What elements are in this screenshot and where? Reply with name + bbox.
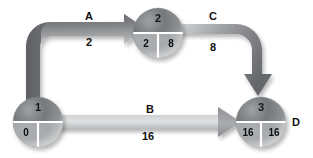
edge-a-weight: 2 [86,37,92,48]
node-3-bottom-left-value: 16 [242,127,254,138]
node-3-outer-label: D [292,117,300,128]
edge-c-name: C [209,11,217,22]
edge-a-name: A [85,11,93,22]
node-1-top-value: 1 [35,101,41,113]
node-2-top-value: 2 [155,12,161,24]
node-3[interactable]: 3 16 16 [236,97,286,147]
edge-b-weight: 16 [142,131,154,142]
node-2-bottom-right-value: 8 [168,38,174,49]
edge-c-weight: 8 [210,42,216,53]
node-3-bottom-right-value: 16 [268,127,280,138]
diagram-svg: 2 2 8 1 0 3 16 16 [0,0,313,158]
edge-b-arrow [40,107,241,137]
node-3-top-value: 3 [258,101,264,113]
diagram-canvas: 2 2 8 1 0 3 16 16 A 2 C 8 [0,0,313,158]
edge-b-name: B [146,104,154,115]
edge-c-arrow [176,24,272,96]
node-2-bottom-left-value: 2 [143,38,149,49]
node-1-bottom-left-value: 0 [23,127,29,138]
node-1[interactable]: 1 0 [13,97,63,147]
node-2[interactable]: 2 2 8 [133,8,183,58]
